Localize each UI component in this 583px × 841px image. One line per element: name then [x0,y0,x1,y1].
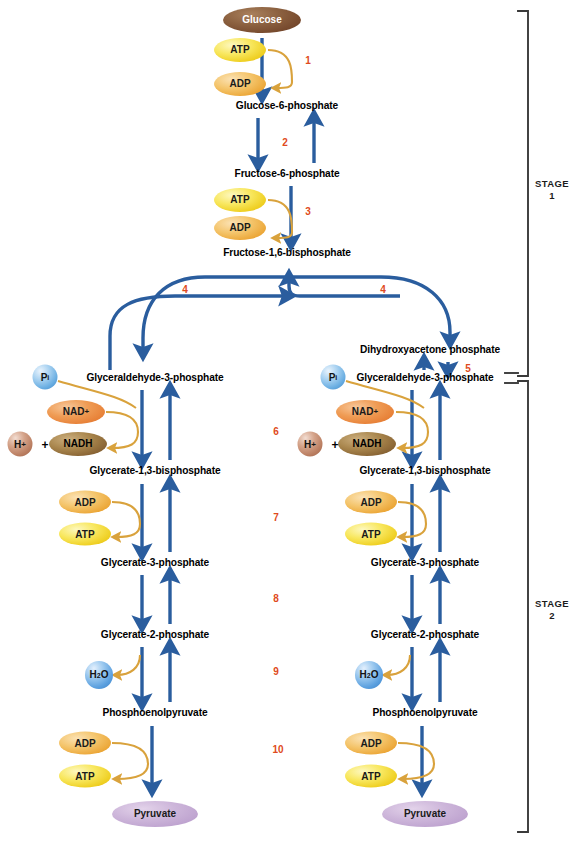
cofactor-label: ATP [361,771,380,781]
cofactor-label: NADH [353,439,382,449]
step-number-3: 3 [305,207,311,217]
cofactor-adp-7-left: ADP [59,491,111,514]
cofactor-label: NAD [63,407,85,417]
cofactor-nadh-right: NADH [338,432,396,456]
metabolite-label-g3pho-left: Glycerate-3-phosphate [101,558,209,568]
stage-bracket-group [505,11,528,832]
cofactor-label: ADP [229,223,250,233]
stage-word: STAGE [535,598,569,610]
metabolite-label-g3p-right: Glyceraldehyde-3-phosphate [356,373,493,383]
metabolite-label-g13bp-right: Glycerate-1,3-bisphosphate [359,466,490,476]
sphere-h2o-left: H2O [85,661,113,689]
step-number-5: 5 [465,364,471,374]
step-number-4: 4 [380,285,386,295]
cofactor-label: ADP [360,738,381,748]
cofactor-nadh-left: NADH [49,432,107,456]
metabolite-label-g3p-left: Glyceraldehyde-3-phosphate [86,373,223,383]
step-number-4: 4 [182,285,188,295]
cofactor-label: ADP [74,497,95,507]
cofactor-adp-10-right: ADP [345,732,397,755]
cofactor-label: ATP [75,771,94,781]
cofactor-adp-7-right: ADP [345,491,397,514]
metabolite-node-pyruvate-right: Pyruvate [382,801,468,827]
stage-number: 2 [535,610,569,622]
cofactor-superscript: + [374,408,379,416]
cofactor-label: NADH [64,439,93,449]
metabolite-label-f16bp: Fructose-1,6-bisphosphate [223,248,351,258]
metabolite-label-f6p: Fructose-6-phosphate [235,169,340,179]
step-number-2: 2 [282,138,288,148]
sphere-subscript: i [335,374,337,381]
stage-label-stage-1: STAGE1 [535,178,569,202]
cofactor-nadplus-left: NAD+ [47,400,105,424]
metabolite-label-g3pho-right: Glycerate-3-phosphate [371,558,479,568]
cofactor-label: ATP [230,195,249,205]
step-number-9: 9 [273,667,279,677]
step-number-7: 7 [273,513,279,523]
sphere-label: H [360,670,367,680]
metabolite-label-pep-right: Phosphoenolpyruvate [372,708,477,718]
metabolite-label-dhap: Dihydroxyacetone phosphate [360,345,500,355]
cofactor-label: ATP [361,529,380,539]
sphere-pi-left: Pi [33,365,58,390]
sphere-label: H [14,439,21,449]
cofactor-atp-10-left: ATP [59,765,111,788]
metabolite-label-pep-left: Phosphoenolpyruvate [102,708,207,718]
metabolite-node-glucose: Glucose [223,7,301,33]
sphere-superscript: + [311,440,316,448]
cofactor-superscript: + [85,408,90,416]
sphere-superscript: + [21,440,26,448]
sphere-label: H [304,439,311,449]
sphere-h2o-right: H2O [355,661,383,689]
cofactor-label: ADP [74,738,95,748]
cofactor-label: ADP [229,79,250,89]
step-number-6: 6 [273,427,279,437]
cofactor-label: ATP [230,45,249,55]
metabolite-label-g6p: Glucose-6-phosphate [236,101,338,111]
glycolysis-diagram: GlucoseGlucose-6-phosphateFructose-6-pho… [0,0,583,841]
cofactor-atp-3: ATP [214,188,266,212]
cofactor-label: ATP [75,529,94,539]
sphere-hplus-left: H+ [8,432,33,457]
sphere-label: H [90,670,97,680]
sphere-suffix: O [371,670,379,680]
stage-1-bracket [518,11,528,376]
cofactor-adp-3: ADP [214,216,266,240]
cofactor-adp-10-left: ADP [59,732,111,755]
sphere-suffix: O [101,670,109,680]
aldolase-branch-curves [110,277,450,370]
sphere-label: P [41,372,48,382]
stage-label-stage-2: STAGE2 [535,598,569,622]
plus-sign-plus-right: + [331,439,338,451]
metabolite-label-g2pho-right: Glycerate-2-phosphate [371,630,479,640]
sphere-pi-right: Pi [321,365,346,390]
stage-2-bracket [518,381,528,832]
cofactor-label: NAD [352,407,374,417]
plus-sign-plus-left: + [41,439,48,451]
reaction-arrow-group [142,38,448,788]
step-number-10: 10 [272,745,283,755]
cofactor-adp-1: ADP [214,72,266,96]
cofactor-atp-10-right: ATP [345,765,397,788]
cofactor-atp-1: ATP [214,38,266,62]
sphere-subscript: i [47,374,49,381]
stage-number: 1 [535,190,569,202]
sphere-label: P [329,372,336,382]
cofactor-atp-7-right: ATP [345,523,397,546]
sphere-hplus-right: H+ [298,432,323,457]
step-number-8: 8 [273,594,279,604]
cofactor-label: ADP [360,497,381,507]
cofactor-nadplus-right: NAD+ [336,400,394,424]
metabolite-label-g13bp-left: Glycerate-1,3-bisphosphate [89,466,220,476]
metabolite-node-pyruvate-left: Pyruvate [112,801,198,827]
cofactor-atp-7-left: ATP [59,523,111,546]
step-number-1: 1 [305,56,311,66]
stage-word: STAGE [535,178,569,190]
metabolite-label-g2pho-left: Glycerate-2-phosphate [101,630,209,640]
